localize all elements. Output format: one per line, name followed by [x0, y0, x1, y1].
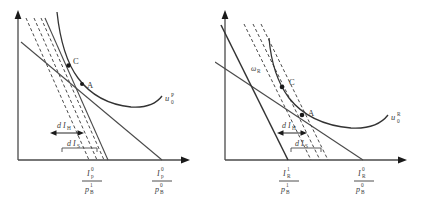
svg-text:R: R [287, 173, 291, 179]
svg-text:0: 0 [361, 182, 364, 188]
di-s-label: d [295, 139, 300, 148]
panel-poor: C A u P 0 d I H d I S [0, 0, 215, 204]
x-tick-label-2: I p 0 p B 0 [152, 166, 172, 195]
svg-text:0: 0 [171, 99, 174, 105]
point-a-label: A [308, 108, 315, 118]
svg-text:0: 0 [160, 182, 163, 188]
di-h-label-sub: H [292, 125, 296, 131]
svg-text:1: 1 [287, 166, 290, 172]
svg-text:I: I [282, 169, 286, 178]
di-h-label-italic: I [287, 121, 291, 130]
svg-text:p: p [154, 185, 159, 194]
x-tick-label-2: I R 0 p B 0 [354, 166, 374, 195]
svg-text:I: I [156, 169, 160, 178]
di-s-label-sub: S [305, 143, 308, 149]
svg-text:p: p [84, 185, 89, 194]
di-h-label-sub: H [67, 125, 71, 131]
y-axis [15, 10, 22, 160]
di-h-label-italic: I [62, 121, 66, 130]
svg-text:p: p [280, 185, 285, 194]
svg-text:B: B [160, 189, 164, 195]
svg-text:I: I [86, 169, 90, 178]
budget-line-initial [21, 42, 162, 160]
point-c-marker [66, 63, 71, 68]
svg-text:0: 0 [362, 166, 365, 172]
di-s-indicator: d I S [62, 139, 97, 152]
svg-text:p: p [355, 185, 360, 194]
svg-text:B: B [90, 189, 94, 195]
svg-text:0: 0 [91, 166, 94, 172]
budget-line-hicks-dashed [26, 18, 89, 160]
figure-container: C A u P 0 d I H d I S [0, 0, 430, 204]
svg-text:0: 0 [161, 166, 164, 172]
indifference-curve [269, 38, 388, 128]
point-c-marker [280, 85, 285, 90]
indifference-curve-label: u P 0 [165, 92, 174, 105]
panel-poor-svg: C A u P 0 d I H d I S [0, 0, 215, 204]
budget-line-new [45, 18, 108, 160]
svg-text:I: I [357, 169, 361, 178]
di-s-label-sub: S [77, 143, 80, 149]
svg-text:1: 1 [90, 182, 93, 188]
di-h-label: d [282, 121, 287, 130]
di-s-label-italic: I [72, 139, 76, 148]
panel-rich-svg: C A ω R u R 0 d I H [215, 0, 430, 204]
svg-text:P: P [171, 92, 174, 98]
endowment-label: ω R [251, 64, 261, 74]
svg-text:0: 0 [397, 118, 400, 124]
point-a-marker [300, 113, 305, 118]
x-tick-label-1: I R 1 p B 1 [279, 166, 299, 195]
svg-text:p: p [91, 173, 94, 179]
svg-text:u: u [165, 93, 169, 103]
point-c-label: C [73, 56, 79, 66]
x-tick-label-1: I p 0 p B 1 [82, 166, 102, 195]
svg-text:B: B [361, 189, 365, 195]
point-a-marker [80, 82, 84, 86]
svg-text:p: p [161, 173, 164, 179]
di-s-label: d [67, 139, 72, 148]
di-h-label: d [57, 121, 62, 130]
panel-rich: C A ω R u R 0 d I H [215, 0, 430, 204]
svg-text:ω: ω [251, 64, 256, 73]
di-s-label-italic: I [300, 139, 304, 148]
svg-text:R: R [257, 68, 261, 74]
budget-line-slutsky-dashed [253, 24, 320, 160]
svg-text:B: B [286, 189, 290, 195]
svg-text:1: 1 [286, 182, 289, 188]
di-h-indicator: d I H [50, 121, 84, 136]
x-axis [225, 157, 407, 164]
point-a-label: A [87, 80, 94, 90]
di-h-indicator: d I H [277, 121, 307, 136]
indifference-curve-label: u R 0 [391, 111, 401, 124]
point-c-label: C [289, 77, 295, 87]
svg-text:R: R [362, 173, 366, 179]
svg-text:R: R [397, 111, 401, 117]
x-axis [18, 157, 190, 164]
svg-text:u: u [391, 112, 395, 122]
